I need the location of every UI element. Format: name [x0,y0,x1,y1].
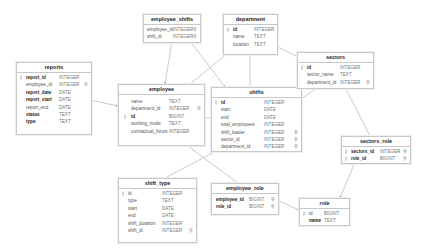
column-row: employee_id INTEGER ⚲ [144,26,200,33]
column-type: INTEGER [169,105,189,112]
column-type: DATE [59,96,71,103]
column-row: name TEXT [119,98,204,105]
column-type: BIGINT [169,113,184,120]
table-employee-role[interactable]: employee_role employee_id BIGINT ⚲ role_… [211,183,279,215]
column-row: name TEXT [224,33,277,40]
column-type: DATE [162,205,174,212]
link-key-icon: ⚲ [193,26,197,33]
column-type: INTEGER [264,121,284,128]
table-reports[interactable]: reports ⚷ report_id INTEGER employee_id … [16,62,92,135]
key-icon: ⚷ [302,210,308,217]
table-title: employee [119,85,204,95]
link-key-icon: ⚲ [197,105,201,112]
link-sectors-role-sectors [345,87,370,136]
table-title: employee_shifts [144,15,200,25]
column-type: TEXT [169,98,181,105]
column-type: TEXT [254,33,266,40]
column-type: INTEGER [162,190,182,197]
link-key-icon: ⚲ [294,136,298,143]
table-role[interactable]: role ⚷ id BIGINT name TEXT [299,198,350,226]
link-key-icon: ⚲ [366,79,370,86]
table-employee-shifts[interactable]: employee_shifts employee_id INTEGER ⚲ sh… [143,14,201,43]
column-name: id [233,26,237,33]
column-row: ⚷ id BIGINT [300,210,349,217]
link-key-icon: ⚲ [193,33,197,40]
column-type: INTEGER [173,26,193,33]
column-name: employee_id [216,196,244,203]
table-shift-type[interactable]: shift_type ⚷ id INTEGER type TEXT start … [118,178,197,243]
link-key-icon: ⚲ [403,148,407,155]
column-row: role_id BIGINT ⚲ [212,203,278,210]
column-name: role_id [351,155,366,162]
column-type: BIGINT [249,203,264,210]
column-row: ⚷ id INTEGER [212,99,301,106]
column-row: end DATE [212,114,301,121]
column-name: shift_leader [221,129,245,136]
column-row: ⚷ id BIGINT [119,113,204,120]
column-name: name [233,33,245,40]
column-row: end DATE [119,212,196,219]
column-name: role_id [216,203,231,210]
column-row: department_id INTEGER ⚲ [212,143,301,150]
column-name: report_date [26,89,51,96]
column-type: DATE [59,104,71,111]
table-title: sectors_role [342,137,410,147]
table-department[interactable]: department ⚷ id INTEGER name TEXT locati… [223,14,278,55]
column-row: location TEXT [224,41,277,48]
column-type: INTEGER [169,128,189,135]
column-row: shift_id INTEGER ⚲ [144,33,200,40]
column-name: id [309,210,313,217]
column-name: end [128,212,136,219]
column-name: total_employees [221,121,254,128]
column-row: start DATE [119,205,196,212]
column-type: BIGINT [324,210,339,217]
column-row: sector_id INTEGER ⚲ [212,136,301,143]
column-name: shift_duration [128,220,156,227]
column-name: start [221,106,230,113]
column-row: type TEXT [17,118,91,125]
column-type: INTEGER [340,79,360,86]
table-title: reports [17,63,91,73]
table-title: sectors [298,53,373,63]
column-type: INTEGER [380,148,400,155]
column-row: ⚷ id INTEGER [119,190,196,197]
column-row: report_end DATE [17,104,91,111]
column-name: name [131,98,143,105]
key-icon: ⚷ [214,99,220,106]
key-icon: ⚷ [344,155,350,162]
table-sectors-role[interactable]: sectors_role ⚷ sectors_id INTEGER ⚲ ⚷ ro… [341,136,411,164]
column-name: department_id [221,143,250,150]
column-type: INTEGER [59,74,79,81]
column-name: working_mode [131,120,161,127]
link-employee-shifts-employee [165,41,172,84]
table-title: shifts [212,88,301,98]
table-employee[interactable]: employee name TEXT department_id INTEGER… [118,84,205,146]
link-employee-department [190,53,228,84]
column-type: DATE [264,114,276,121]
link-key-icon: ⚲ [403,155,407,162]
table-title: department [224,15,277,25]
column-name: shift_id [147,33,162,40]
column-type: DATE [162,212,174,219]
column-type: TEXT [340,71,352,78]
column-row: shift_id INTEGER ⚲ [119,227,196,234]
column-name: employee_id [147,26,173,33]
key-icon: ⚷ [19,74,25,81]
link-key-icon: ⚲ [294,143,298,150]
column-row: start DATE [212,106,301,113]
column-type: INTEGER [254,26,274,33]
link-key-icon: ⚲ [271,196,275,203]
column-type: INTEGER [264,99,284,106]
table-sectors[interactable]: sectors ⚷ id INTEGER sector_name TEXT de… [297,52,374,89]
column-row: working_mode TEXT [119,120,204,127]
column-name: department_id [131,105,160,112]
column-row: shift_duration INTEGER [119,220,196,227]
column-name: report_end [26,104,48,111]
column-name: sectors_id [351,148,374,155]
link-key-icon: ⚲ [271,203,275,210]
link-key-icon: ⚲ [189,227,193,234]
column-row: department_id INTEGER ⚲ [119,105,204,112]
table-shifts[interactable]: shifts ⚷ id INTEGER start DATE end DATE … [211,87,302,152]
column-name: id [221,99,225,106]
column-type: TEXT [162,197,174,204]
